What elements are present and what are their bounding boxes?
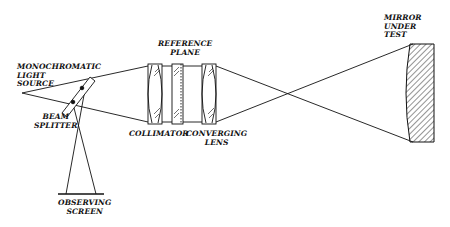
reference-plane xyxy=(172,64,183,124)
converging-lens-label: CONVERGING LENS xyxy=(186,130,247,147)
collimator-label: COLLIMATOR xyxy=(129,130,189,139)
light-source-label: MONOCHROMATIC LIGHT SOURCE xyxy=(17,63,101,89)
converging-rays xyxy=(216,44,413,142)
reference-plane-label: REFERENCE PLANE xyxy=(158,40,212,57)
mirror-under-test xyxy=(406,44,434,142)
return-rays xyxy=(66,84,96,194)
converging-lens xyxy=(202,64,216,124)
observing-screen-label: OBSERVING SCREEN xyxy=(58,199,111,216)
collimator xyxy=(148,64,162,124)
beam-splitter-label: BEAM SPLITTER xyxy=(34,113,77,130)
mirror-under-test-label: MIRROR UNDER TEST xyxy=(384,14,422,40)
